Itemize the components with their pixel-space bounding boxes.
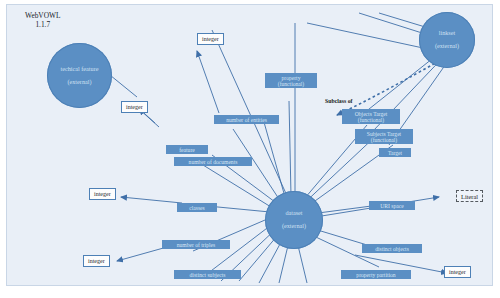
property-label-text: feature: [179, 147, 195, 153]
property-sublabel-text: (functional): [358, 117, 384, 123]
property-label-distinct-objects[interactable]: distinct objects: [362, 244, 422, 253]
property-label-text: property partition: [356, 272, 395, 278]
property-label-number-of-triples[interactable]: number of triples: [162, 240, 230, 249]
property-label-classes[interactable]: classes: [177, 203, 217, 212]
property-label-number-of-entities[interactable]: number of entities: [214, 115, 279, 124]
app-name: WebVOWL: [25, 11, 61, 20]
app-version: 1.1.7: [35, 20, 50, 29]
class-label: dataset: [282, 210, 306, 217]
datatype-integer-lower-left[interactable]: integer: [83, 255, 110, 267]
datatype-integer-top[interactable]: integer: [197, 33, 224, 45]
property-label-text: Subjects Target: [367, 131, 401, 137]
class-node-techical-feature[interactable]: techical feature (external): [47, 43, 112, 108]
datatype-integer-mid-left[interactable]: integer: [89, 188, 116, 200]
property-label-text: Target: [388, 150, 402, 156]
property-label-text: classes: [189, 205, 205, 211]
property-label-property-functional[interactable]: property (functional): [265, 73, 317, 88]
property-label-property-partition[interactable]: property partition: [341, 270, 411, 279]
property-label-number-of-documents[interactable]: number of documents: [174, 157, 252, 166]
property-sublabel-text: (functional): [371, 137, 397, 143]
property-label-objects-target[interactable]: Objects Target (functional): [342, 109, 400, 124]
property-label-uri-space[interactable]: URI space: [369, 201, 415, 210]
literal-node[interactable]: Literal: [456, 190, 483, 202]
property-label-feature[interactable]: feature: [166, 145, 208, 154]
property-label-text: number of triples: [177, 242, 216, 248]
property-label-target[interactable]: Target: [379, 148, 411, 157]
app-title: WebVOWL 1.1.7: [25, 12, 61, 30]
property-label-text: distinct subjects: [190, 272, 226, 278]
property-label-text: distinct objects: [375, 246, 409, 252]
class-node-linkset[interactable]: linkset (external): [419, 12, 475, 68]
property-label-distinct-subjects[interactable]: distinct subjects: [174, 270, 241, 279]
property-label-text: number of entities: [226, 117, 267, 123]
property-sublabel-text: (functional): [278, 81, 304, 87]
class-sublabel: (external): [435, 43, 459, 50]
subclass-of-annotation: Subclass of: [325, 98, 353, 104]
datatype-integer-bottom-right[interactable]: integer: [444, 266, 471, 278]
property-label-text: URI space: [380, 203, 403, 209]
property-label-text: number of documents: [189, 159, 238, 165]
class-label: linkset: [435, 30, 459, 37]
property-label-subjects-target[interactable]: Subjects Target (functional): [355, 129, 413, 144]
class-sublabel: (external): [282, 223, 306, 230]
class-node-dataset[interactable]: dataset (external): [265, 191, 323, 249]
graph-canvas[interactable]: WebVOWL 1.1.7 techical feature (external…: [6, 4, 493, 286]
property-label-text: property: [282, 75, 301, 81]
property-label-text: Objects Target: [355, 111, 388, 117]
class-label: techical feature: [61, 66, 99, 73]
class-sublabel: (external): [61, 79, 99, 86]
datatype-integer-upper-left[interactable]: integer: [121, 101, 148, 113]
